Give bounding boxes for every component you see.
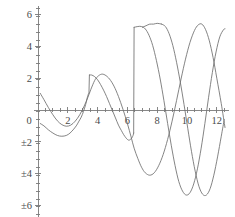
curve-smooth-oscillation <box>40 24 225 175</box>
plot-figure: 024681012642±2±4±6 <box>0 0 235 217</box>
plot-canvas: 024681012642±2±4±6 <box>0 0 235 217</box>
y-tick-label: 4 <box>27 41 33 52</box>
x-tick-label: 6 <box>125 115 130 126</box>
y-tick-label: ±2 <box>21 137 32 148</box>
y-tick-label: ±6 <box>21 200 32 211</box>
x-tick-label: 0 <box>26 115 31 126</box>
y-tick-label: 6 <box>27 9 32 20</box>
x-tick-label: 12 <box>212 115 223 126</box>
y-tick-label: ±4 <box>21 168 33 179</box>
y-tick-label: 2 <box>27 73 32 84</box>
axes-group <box>34 6 229 217</box>
minor-ticks-group <box>36 8 224 215</box>
x-tick-label: 4 <box>95 115 101 126</box>
x-tick-label: 10 <box>182 115 193 126</box>
x-tick-label: 8 <box>155 115 160 126</box>
curve-jump-oscillation-head <box>142 23 161 27</box>
x-tick-label: 2 <box>65 115 70 126</box>
